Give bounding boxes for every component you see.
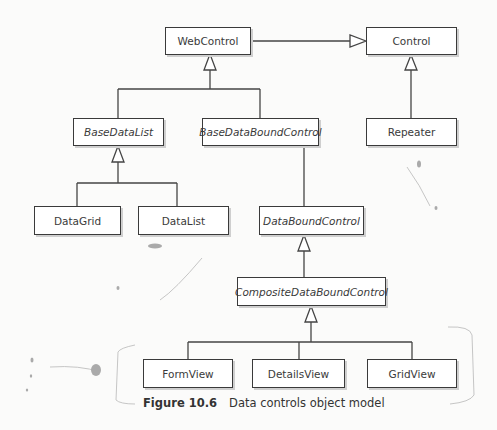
class-basedataboundcontrol: BaseDataBoundControl [202,118,319,146]
class-label: FormView [162,368,213,380]
class-compositedataboundcontrol: CompositeDataBoundControl [237,277,386,306]
class-databoundcontrol: DataBoundControl [259,206,364,235]
class-control: Control [366,27,457,55]
figure-caption: Figure 10.6Data controls object model [143,396,385,410]
class-label: DataGrid [54,215,101,227]
class-label: DataBoundControl [263,215,360,227]
class-label: GridView [389,368,436,380]
class-label: BaseDataBoundControl [199,126,321,138]
figure-number: Figure 10.6 [143,396,217,410]
class-label: Control [393,35,431,47]
figure-title: Data controls object model [229,396,385,410]
class-repeater: Repeater [366,118,457,146]
class-label: CompositeDataBoundControl [235,286,388,298]
class-formview: FormView [143,359,233,388]
class-webcontrol: WebControl [165,27,251,55]
class-basedatalist: BaseDataList [73,118,164,146]
class-label: WebControl [178,35,239,47]
class-label: Repeater [388,126,436,138]
class-label: BaseDataList [84,126,153,138]
class-detailsview: DetailsView [252,359,345,388]
class-datagrid: DataGrid [34,206,121,235]
class-datalist: DataList [138,206,229,235]
class-gridview: GridView [367,359,457,388]
class-label: DataList [162,215,205,227]
class-label: DetailsView [268,368,329,380]
